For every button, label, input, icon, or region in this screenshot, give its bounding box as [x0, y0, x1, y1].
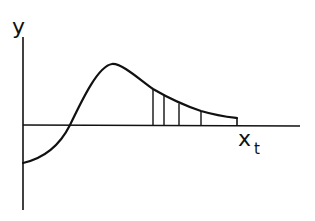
area-slices [153, 89, 237, 125]
function-diagram: y x t [0, 0, 315, 221]
x-axis-label: x [238, 126, 251, 151]
x-axis-subscript: t [254, 140, 260, 158]
y-axis-label: y [12, 14, 25, 39]
x-axis [23, 125, 300, 126]
function-curve [23, 64, 237, 163]
